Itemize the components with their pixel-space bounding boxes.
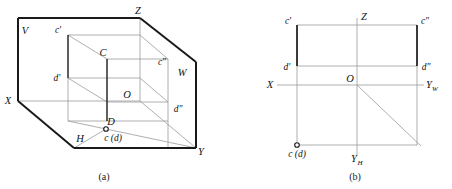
- box-edge-d-diagonal: [68, 78, 107, 102]
- axis-label-x: X: [266, 79, 274, 90]
- point-marker-cd: [104, 127, 109, 132]
- box-edge-bottom-left-diagonal: [68, 121, 106, 129]
- point-label-c-front: c': [285, 16, 292, 26]
- point-label-c-side: c″: [421, 16, 430, 26]
- box-edge-right-top-diagonal: [140, 35, 168, 59]
- point-label-d-side: d″: [422, 62, 432, 72]
- technical-drawing-svg: V H W X Y Z c' C c″ d' D d″ O c (d) (a): [0, 0, 452, 189]
- panel-b-group: X Y W Y H Z c' c″ d' d″ O c (d) (b): [266, 11, 439, 183]
- plane-h-left-diagonal: [18, 101, 74, 148]
- panel-a-caption: (a): [98, 171, 109, 183]
- plane-label-v: V: [22, 25, 30, 36]
- panel-b-construction-lines: [277, 18, 424, 155]
- axis-label-z: Z: [361, 11, 367, 22]
- diagonal-45-line: [357, 85, 421, 146]
- point-label-cd-top: c (d): [288, 149, 306, 160]
- point-label-origin: O: [123, 89, 131, 100]
- point-marker-cd: [295, 143, 300, 148]
- panel-a-group: V H W X Y Z c' C c″ d' D d″ O c (d) (a): [4, 5, 205, 183]
- axis-label-x: X: [4, 95, 12, 106]
- panel-b-caption: (b): [349, 171, 361, 183]
- point-label-origin: O: [346, 73, 354, 84]
- point-label-c-side: c″: [158, 57, 167, 67]
- plane-label-h: H: [75, 133, 85, 144]
- plane-w-upper-diagonal: [140, 18, 196, 62]
- point-label-d-side: d″: [174, 104, 184, 114]
- point-label-d-front: d': [54, 73, 62, 83]
- point-label-cd-top: c (d): [104, 133, 122, 144]
- figure-container: V H W X Y Z c' C c″ d' D d″ O c (d) (a): [0, 0, 452, 189]
- plane-label-w: W: [178, 67, 188, 78]
- axis-label-z: Z: [135, 5, 141, 16]
- axis-label-y: Y: [198, 146, 205, 157]
- box-edge-right-bottom-diagonal: [140, 78, 168, 102]
- point-label-d: D: [106, 116, 115, 127]
- point-label-d-front: d': [284, 62, 292, 72]
- axis-label-yw-subscript: W: [432, 85, 439, 93]
- point-label-c: C: [99, 47, 107, 58]
- point-label-c-front: c': [55, 25, 62, 35]
- axis-label-yh-subscript: H: [356, 159, 363, 167]
